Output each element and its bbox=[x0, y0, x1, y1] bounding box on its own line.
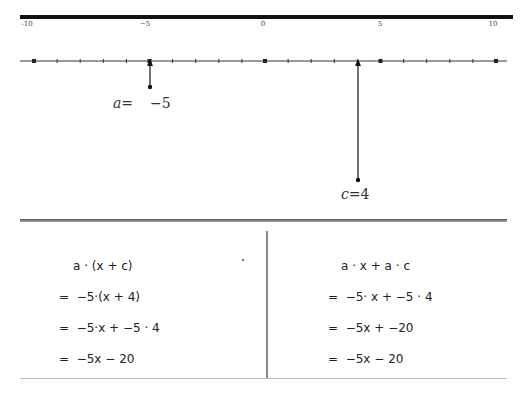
arrow-up-icon bbox=[355, 59, 361, 66]
slider-c[interactable] bbox=[355, 59, 361, 182]
left-expression-header: a · (x + c) bbox=[73, 259, 133, 273]
column-divider bbox=[266, 231, 268, 379]
equals-sign: = bbox=[349, 186, 361, 202]
variable-a-value: −5 bbox=[150, 95, 171, 111]
variable-a-label: a= bbox=[113, 95, 133, 111]
equals-sign: = bbox=[121, 95, 133, 111]
right-step-2: = −5x + −20 bbox=[328, 321, 413, 335]
variable-c-value: 4 bbox=[361, 186, 370, 202]
number-line-panel: -10 −5 0 5 10 a= −5 c=4 bbox=[0, 0, 526, 215]
right-step-3: = −5x − 20 bbox=[328, 352, 403, 366]
left-step-3: = −5x − 20 bbox=[59, 352, 134, 366]
slider-handle-c[interactable] bbox=[356, 178, 360, 182]
section-divider bbox=[20, 219, 507, 222]
number-line-graphic bbox=[0, 0, 526, 215]
slider-handle-a[interactable] bbox=[148, 85, 152, 89]
slider-a[interactable] bbox=[147, 59, 153, 89]
left-step-1: = −5·(x + 4) bbox=[59, 290, 140, 304]
right-step-1: = −5· x + −5 · 4 bbox=[328, 290, 433, 304]
stray-mark bbox=[242, 259, 244, 261]
left-step-2: = −5·x + −5 · 4 bbox=[59, 321, 160, 335]
bottom-divider bbox=[20, 378, 507, 379]
var-name-c: c bbox=[341, 186, 349, 202]
right-expression-header: a · x + a · c bbox=[341, 259, 410, 273]
variable-c-label: c=4 bbox=[341, 186, 370, 202]
